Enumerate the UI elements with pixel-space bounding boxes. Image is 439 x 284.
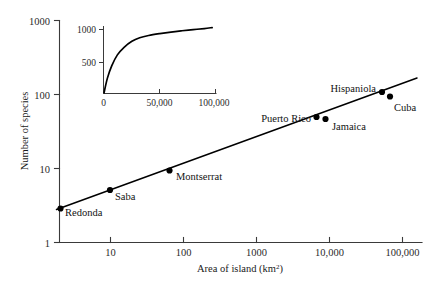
main-axis-lines	[60, 21, 423, 243]
inset-ytick-label-500: 500	[82, 58, 97, 68]
figure-root: 1000 100 10 1 10 100 1000 10,000 100,000…	[0, 0, 439, 284]
inset-saturating-curve	[104, 28, 212, 93]
data-point-puerto-rico[interactable]	[313, 114, 319, 120]
inset-xtick-label-0: 0	[101, 98, 106, 108]
main-ytick-label-100: 100	[34, 90, 50, 101]
species-area-figure: 1000 100 10 1 10 100 1000 10,000 100,000…	[0, 0, 439, 284]
main-xtick-label-10000: 10,000	[315, 247, 344, 258]
main-xtick-label-1000: 1000	[246, 247, 267, 258]
inset-xtick-label-100000: 100,000	[199, 98, 230, 108]
data-label-montserrat: Montserrat	[176, 171, 222, 182]
inset-xtick-label-50000: 50,000	[146, 98, 172, 108]
data-point-cuba[interactable]	[387, 93, 393, 99]
inset-axis-lines	[104, 27, 217, 94]
inset-x-ticks	[160, 90, 216, 94]
main-x-ticks	[111, 238, 403, 243]
data-point-jamaica[interactable]	[322, 116, 328, 122]
main-xtick-label-100000: 100,000	[385, 247, 419, 258]
data-label-saba: Saba	[115, 191, 136, 202]
main-ytick-label-10: 10	[40, 164, 51, 175]
main-ytick-label-1000: 1000	[29, 16, 50, 27]
inset-chart: 1000 500 0 50,000 100,000	[77, 25, 230, 108]
main-xtick-label-10: 10	[105, 247, 116, 258]
inset-y-ticks	[100, 30, 104, 63]
x-axis-title: Area of island (km2)	[197, 263, 284, 276]
data-point-montserrat[interactable]	[166, 167, 172, 173]
data-point-redonda[interactable]	[57, 205, 63, 211]
data-label-cuba: Cuba	[394, 102, 417, 113]
y-axis-title: Number of species	[19, 92, 30, 171]
data-point-hispaniola[interactable]	[379, 89, 385, 95]
data-label-redonda: Redonda	[65, 207, 103, 218]
data-label-puerto-rico: Puerto Rico	[261, 113, 311, 124]
main-xtick-label-100: 100	[176, 247, 192, 258]
data-label-hispaniola: Hispaniola	[331, 83, 377, 94]
main-ytick-label-1: 1	[45, 238, 50, 249]
data-point-saba[interactable]	[107, 187, 113, 193]
main-axes: 1000 100 10 1 10 100 1000 10,000 100,000…	[19, 16, 422, 276]
data-point-labels: Redonda Saba Montserrat Puerto Rico Jama…	[65, 83, 417, 218]
inset-ytick-label-1000: 1000	[77, 25, 96, 35]
data-label-jamaica: Jamaica	[332, 121, 366, 132]
